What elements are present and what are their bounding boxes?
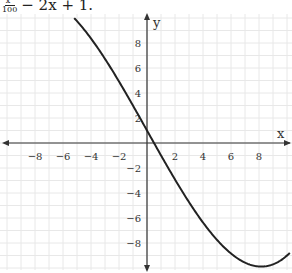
- y-tick-label: −4: [126, 188, 141, 199]
- x-tick-label: 6: [228, 151, 234, 162]
- x-tick-label: −8: [28, 151, 43, 162]
- grid: [0, 14, 292, 270]
- y-axis-up-arrow-icon: [144, 13, 150, 20]
- x-axis-label: x: [277, 126, 285, 141]
- y-tick-label: 8: [135, 38, 141, 49]
- y-tick-label: −2: [126, 163, 141, 174]
- function-plot: −8−6−4−22468−8−6−4−22468 x y: [0, 0, 292, 273]
- x-tick-label: 2: [172, 151, 178, 162]
- x-tick-label: −2: [112, 151, 127, 162]
- y-tick-label: 4: [135, 88, 141, 99]
- x-axis-left-arrow-icon: [2, 140, 9, 146]
- x-tick-label: 4: [200, 151, 206, 162]
- x-tick-label: −6: [56, 151, 71, 162]
- y-axis-label: y: [152, 15, 161, 30]
- x-tick-label: 8: [256, 151, 262, 162]
- y-tick-label: −8: [126, 238, 141, 249]
- x-tick-label: −4: [84, 151, 99, 162]
- axes: [2, 13, 291, 272]
- y-tick-label: 6: [135, 63, 141, 74]
- y-tick-label: −6: [126, 213, 141, 224]
